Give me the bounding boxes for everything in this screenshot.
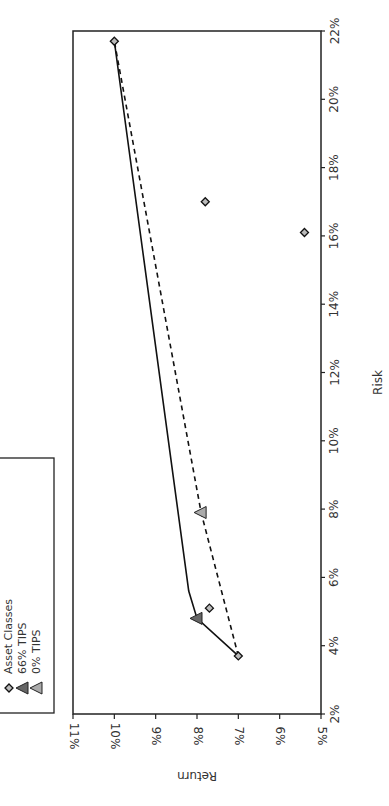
risk-tick-label: 16% (328, 223, 342, 250)
return-tick-label: 10% (108, 723, 122, 750)
plot-area (73, 31, 321, 714)
risk-tick-label: 8% (328, 500, 342, 519)
return-tick-label: 8% (191, 726, 205, 745)
risk-axis-title: Risk (371, 370, 385, 395)
return-tick-label: 11% (67, 723, 81, 750)
legend: Asset Classes66% TIPS0% TIPS (0, 458, 54, 713)
risk-tick-label: 22% (328, 18, 342, 45)
risk-return-chart: 2%4%6%8%10%12%14%16%18%20%22% 5%6%7%8%9%… (0, 0, 389, 806)
return-tick-label: 9% (149, 726, 163, 745)
return-tick-label: 6% (273, 726, 287, 745)
risk-tick-label: 14% (328, 291, 342, 318)
legend-label: Asset Classes (2, 599, 15, 674)
legend-label: 66% TIPS (16, 622, 29, 674)
risk-axis: 2%4%6%8%10%12%14%16%18%20%22% (321, 18, 342, 724)
risk-tick-label: 2% (328, 704, 342, 723)
risk-tick-label: 20% (328, 86, 342, 113)
return-axis: 5%6%7%8%9%10%11% (67, 714, 329, 749)
plot-frame (73, 31, 321, 714)
risk-tick-label: 12% (328, 359, 342, 386)
risk-tick-label: 10% (328, 427, 342, 454)
return-axis-title: Return (177, 769, 217, 783)
return-tick-label: 7% (232, 726, 246, 745)
legend-label: 0% TIPS (30, 629, 43, 674)
risk-tick-label: 6% (328, 568, 342, 587)
risk-tick-label: 18% (328, 154, 342, 181)
risk-tick-label: 4% (328, 636, 342, 655)
return-tick-label: 5% (315, 726, 329, 745)
